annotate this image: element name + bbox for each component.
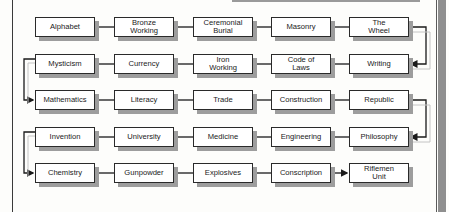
node-label: Iron Working: [209, 56, 237, 72]
node-writing: Writing: [349, 54, 409, 74]
node-philosophy: Philosophy: [349, 127, 409, 147]
node-label: Mysticism: [48, 60, 81, 68]
node-currency: Currency: [114, 54, 174, 74]
node-literacy: Literacy: [114, 90, 174, 110]
node-label: Gunpowder: [124, 169, 163, 177]
node-label: Bronze Working: [130, 19, 158, 35]
node-label: Medicine: [208, 133, 238, 141]
node-gunpowder: Gunpowder: [114, 163, 174, 183]
node-label: Mathematics: [43, 96, 86, 104]
node-label: Writing: [367, 60, 391, 68]
node-label: Invention: [50, 133, 81, 141]
node-label: The Wheel: [368, 19, 390, 35]
node-label: Code of Laws: [288, 56, 315, 72]
node-label: Explosives: [205, 169, 241, 177]
node-republic: Republic: [349, 90, 409, 110]
node-chemistry: Chemistry: [35, 163, 95, 183]
node-label: Chemistry: [48, 169, 82, 177]
node-iron-working: Iron Working: [193, 54, 253, 74]
node-label: Literacy: [131, 96, 158, 104]
node-label: Masonry: [286, 23, 315, 31]
node-label: Ceremonial Burial: [204, 19, 243, 35]
node-label: Currency: [129, 60, 160, 68]
node-trade: Trade: [193, 90, 253, 110]
node-label: Republic: [364, 96, 394, 104]
node-masonry: Masonry: [271, 17, 331, 37]
node-label: Conscription: [280, 169, 322, 177]
node-engineering: Engineering: [271, 127, 331, 147]
node-label: Construction: [280, 96, 323, 104]
node-explosives: Explosives: [193, 163, 253, 183]
node-bronze-working: Bronze Working: [114, 17, 174, 37]
node-label: Riflemen Unit: [364, 165, 394, 181]
node-label: Philosophy: [360, 133, 397, 141]
node-the-wheel: The Wheel: [349, 17, 409, 37]
node-label: University: [127, 133, 160, 141]
node-medicine: Medicine: [193, 127, 253, 147]
node-code-of-laws: Code of Laws: [271, 54, 331, 74]
node-construction: Construction: [271, 90, 331, 110]
node-alphabet: Alphabet: [35, 17, 95, 37]
node-label: Trade: [213, 96, 233, 104]
node-label: Alphabet: [50, 23, 80, 31]
node-conscription: Conscription: [271, 163, 331, 183]
node-mysticism: Mysticism: [35, 54, 95, 74]
node-mathematics: Mathematics: [35, 90, 95, 110]
node-invention: Invention: [35, 127, 95, 147]
node-ceremonial-burial: Ceremonial Burial: [193, 17, 253, 37]
node-riflemen-unit: Riflemen Unit: [349, 163, 409, 183]
node-label: Engineering: [281, 133, 322, 141]
node-university: University: [114, 127, 174, 147]
